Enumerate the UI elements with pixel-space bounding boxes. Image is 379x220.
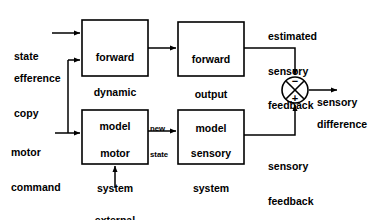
label-line: feedback	[268, 196, 314, 208]
box-label-line: system	[178, 183, 244, 195]
label-external-influences: external influences	[66, 192, 164, 220]
label-line: external	[66, 215, 164, 220]
label-line: difference	[317, 119, 367, 131]
label-line: new	[150, 125, 168, 134]
junction-plus-sign: +	[290, 93, 300, 104]
box-label-line: sensory	[178, 148, 244, 160]
box-label-line: forward	[178, 54, 244, 66]
box-label-line: dynamic	[82, 87, 148, 99]
label-line: state	[150, 151, 168, 160]
label-line: motor	[11, 147, 61, 159]
label-line: efference	[14, 73, 61, 85]
box-label-sensory-system: sensory system	[178, 125, 244, 217]
box-label-line: forward	[82, 52, 148, 64]
label-estimated-sensory-feedback: estimated sensory feedback	[268, 8, 317, 135]
box-label-line: motor	[82, 148, 148, 160]
label-motor-command: motor command	[11, 124, 61, 216]
label-line: copy	[14, 108, 61, 120]
block-diagram: forward dynamic model forward output mod…	[0, 0, 379, 220]
label-new-state: new state	[150, 108, 168, 177]
label-difference: difference	[317, 96, 367, 154]
label-line: sensory	[268, 161, 314, 173]
label-line: command	[11, 182, 61, 194]
label-sensory-feedback: sensory feedback	[268, 138, 314, 220]
label-line: estimated	[268, 31, 317, 43]
box-label-line: output	[178, 89, 244, 101]
junction-minus-sign: −	[290, 76, 300, 87]
